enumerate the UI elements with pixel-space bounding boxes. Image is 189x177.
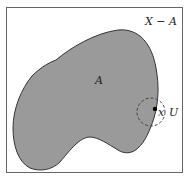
point-label: x bbox=[158, 106, 165, 119]
set-label: A bbox=[94, 74, 103, 87]
point-x bbox=[153, 107, 157, 111]
space-label: X − A bbox=[144, 15, 177, 28]
diagram-canvas: X − A A x U bbox=[0, 0, 189, 177]
neighborhood-label: U bbox=[169, 106, 179, 119]
